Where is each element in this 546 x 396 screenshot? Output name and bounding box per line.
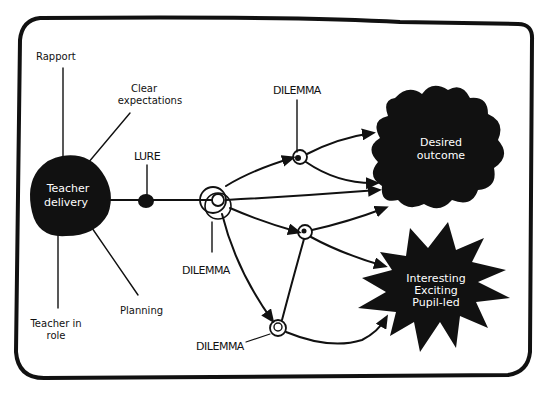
teacher-delivery-label-line1: Teacher [46,182,90,195]
lure-knot [138,194,154,208]
path-top-to-desired-upper [307,133,372,154]
teacher-delivery-label-line2: delivery [44,196,89,209]
clear-expectations-label-line1: Clear [131,83,158,94]
clear-expectations-connector [88,113,130,163]
rapport-label: Rapport [36,51,76,62]
dilemma-bottom-label: DILEMMA [196,340,245,353]
clear-expectations-label-line2: expectations [118,95,182,106]
teacher-in-role-label-line2: role [47,330,66,341]
desired-outcome-label-line1: Desired [420,136,462,149]
path-to-top-dilemma [226,158,292,186]
dilemma-bottom-pointer [246,334,270,342]
path-top-to-desired-lower [306,162,376,183]
dilemma-node-mid-core [302,229,307,234]
starburst-label-line3: Pupil-led [412,296,459,309]
path-mid-to-desired [312,208,385,230]
path-to-mid-dilemma [230,208,298,232]
lure-label: LURE [134,150,161,163]
path-direct-to-desired [226,190,378,200]
diagram-canvas: Rapport Clear expectations Planning Teac… [0,0,546,396]
dilemma-left-label: DILEMMA [182,264,231,277]
dilemma-node-top-core [295,155,301,161]
desired-outcome-label-line2: outcome [417,149,466,162]
dilemma-top-label: DILEMMA [273,84,322,97]
planning-connector [92,228,138,295]
path-bottom-to-starburst [286,318,386,344]
dilemma-node-left-core [212,194,224,206]
dilemma-node-bottom-ring [274,323,282,331]
planning-label: Planning [120,305,163,316]
path-mid-to-starburst [311,237,384,266]
path-mid-to-bottom [282,239,304,320]
teacher-in-role-label-line1: Teacher in [29,318,81,329]
